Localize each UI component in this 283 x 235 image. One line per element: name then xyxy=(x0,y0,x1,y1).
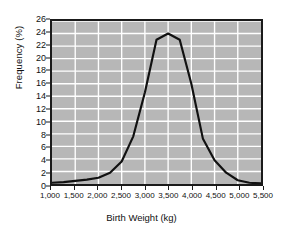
plot-area xyxy=(50,19,263,186)
x-tick-label: 2,000 xyxy=(87,191,107,200)
x-tick-mark xyxy=(97,186,98,190)
x-tick-label: 2,500 xyxy=(111,191,131,200)
y-tick-label: 20 xyxy=(36,53,46,63)
x-tick-mark xyxy=(50,186,51,190)
x-tick-mark xyxy=(121,186,122,190)
y-tick-label: 24 xyxy=(36,27,46,37)
y-tick-label: 16 xyxy=(36,78,46,88)
y-tick-label: 10 xyxy=(36,117,46,127)
x-tick-mark xyxy=(263,186,264,190)
x-tick-mark xyxy=(192,186,193,190)
chart-figure: Frequency (%) 02468101214161820222426 1,… xyxy=(0,0,283,235)
y-tick-label: 18 xyxy=(36,65,46,75)
x-tick-label: 1,500 xyxy=(64,191,84,200)
x-tick-label: 1,000 xyxy=(40,191,60,200)
x-tick-label: 3,000 xyxy=(135,191,155,200)
x-axis-title: Birth Weight (kg) xyxy=(0,212,283,223)
x-tick-label: 4,000 xyxy=(182,191,202,200)
x-tick-label: 5,000 xyxy=(229,191,249,200)
x-axis-tick-labels: 1,0001,5002,0002,5003,0003,5004,0004,500… xyxy=(50,191,263,205)
x-tick-mark xyxy=(168,186,169,190)
y-axis-title: Frequency (%) xyxy=(13,0,24,128)
frequency-curve xyxy=(52,21,261,184)
x-tick-mark xyxy=(239,186,240,190)
y-tick-label: 12 xyxy=(36,104,46,114)
y-axis-tick-labels: 02468101214161820222426 xyxy=(26,19,46,186)
x-tick-mark xyxy=(216,186,217,190)
x-tick-mark xyxy=(74,186,75,190)
x-tick-label: 5,500 xyxy=(253,191,273,200)
y-tick-label: 26 xyxy=(36,14,46,24)
y-tick-label: 22 xyxy=(36,40,46,50)
x-tick-label: 4,500 xyxy=(206,191,226,200)
x-tick-label: 3,500 xyxy=(158,191,178,200)
y-tick-label: 14 xyxy=(36,91,46,101)
x-axis-tick-marks xyxy=(50,186,263,190)
x-tick-mark xyxy=(145,186,146,190)
